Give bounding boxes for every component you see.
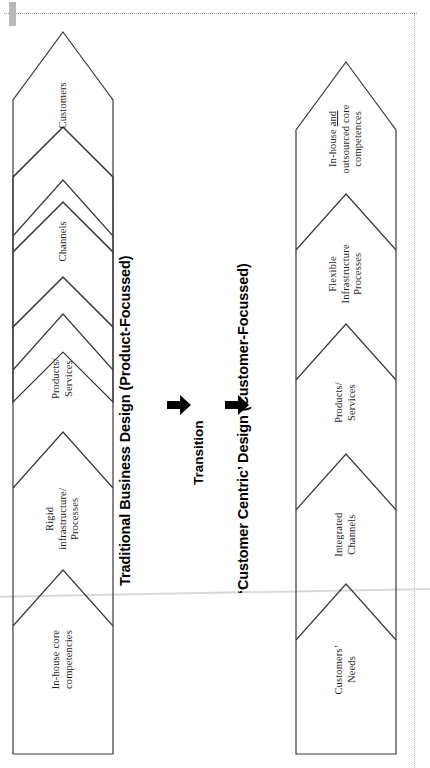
chevron-label-traditional-1: Channels [57,161,70,321]
chevron-column-customer-centric: In-house and outsourced core competences… [295,60,397,756]
chevron-label-traditional-2: Products/ Services [50,299,75,459]
scan-gray-bar [9,2,16,26]
chevron-column-traditional: Customers Channels Products/ Services Ri… [12,30,114,756]
chevron-label-traditional-4: In-house core competencies [50,580,75,740]
underlined-word: and [327,111,338,127]
right-arrow-icon [225,394,249,416]
chevron-label-customer-0-line0: In-house and [327,111,338,167]
transition-label: Transition [191,420,206,485]
scan-dotted-line-right [414,14,415,768]
heading-traditional-business-design: Traditional Business Design (Product-Foc… [117,255,133,586]
chevron-label-customer-4: Customers’ Needs [333,590,358,750]
right-arrow-icon [167,394,191,416]
heading-customer-centric-design: ‘Customer Centric’ Design (Customer-Focu… [235,263,251,594]
chevron-label-traditional-3: Rigid infrastructure/ Processes [44,439,82,599]
scan-dotted-line-top [4,13,417,14]
